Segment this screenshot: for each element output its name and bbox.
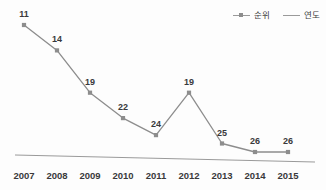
year-series-line — [15, 155, 315, 162]
data-point-label: 11 — [19, 9, 29, 19]
rank-series-line — [24, 25, 288, 152]
legend-marker-rank-icon — [233, 11, 250, 19]
chart-legend: 순위 연도 — [233, 8, 320, 22]
data-point-label: 24 — [151, 119, 161, 129]
x-axis-tick-label: 2011 — [146, 170, 167, 181]
legend-label-year: 연도 — [304, 10, 320, 20]
data-point-marker — [220, 141, 224, 145]
legend-item-rank[interactable]: 순위 — [233, 10, 270, 20]
data-point-marker — [286, 150, 290, 154]
data-point-label: 26 — [283, 136, 293, 146]
data-point-label: 25 — [217, 128, 227, 138]
data-point-label: 22 — [118, 102, 128, 112]
data-point-marker — [121, 116, 125, 120]
rank-series-markers — [22, 23, 290, 154]
x-axis-tick-label: 2008 — [46, 170, 67, 181]
x-axis-tick-label: 2009 — [79, 170, 100, 181]
x-axis-tick-label: 2012 — [178, 170, 199, 181]
x-axis-tick-label: 2015 — [277, 170, 298, 181]
x-axis-tick-label: 2007 — [13, 170, 34, 181]
chart-plot-area — [0, 0, 326, 190]
data-point-marker — [88, 91, 92, 95]
legend-marker-year-icon — [283, 11, 300, 19]
x-axis-tick-label: 2014 — [244, 170, 265, 181]
data-point-label: 19 — [85, 77, 95, 87]
data-point-marker — [55, 48, 59, 52]
legend-label-rank: 순위 — [254, 10, 270, 20]
legend-item-year[interactable]: 연도 — [283, 10, 320, 20]
data-point-marker — [253, 150, 257, 154]
data-point-marker — [22, 23, 26, 27]
x-axis-tick-label: 2013 — [211, 170, 232, 181]
data-point-marker — [154, 133, 158, 137]
data-point-label: 26 — [250, 136, 260, 146]
data-point-label: 19 — [184, 77, 194, 87]
x-axis-tick-label: 2010 — [112, 170, 133, 181]
line-chart: 111419222419252626 200720082009201020112… — [0, 0, 326, 190]
data-point-label: 14 — [52, 34, 62, 44]
data-point-marker — [187, 91, 191, 95]
